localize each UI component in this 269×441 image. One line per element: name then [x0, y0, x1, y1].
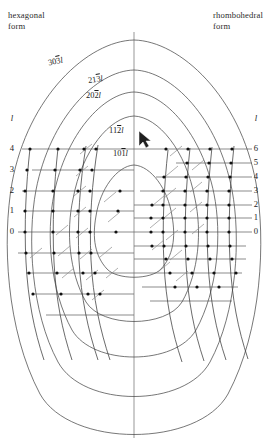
mouse-cursor-icon	[139, 131, 151, 148]
label-101l-l: l	[126, 149, 128, 158]
left-axis-symbol: l	[6, 113, 18, 123]
curve-label-101l: 101l	[113, 149, 128, 158]
label-112l-l: l	[121, 126, 123, 135]
right-lattice-rows	[163, 146, 248, 362]
label-202l-l: l	[99, 91, 101, 100]
reciprocal-lattice-svg	[0, 0, 269, 441]
right-tick-1: 1	[250, 212, 262, 222]
left-tick-1: 1	[6, 205, 18, 215]
right-tick-0: 0	[250, 226, 262, 236]
right-tick-6: 6	[250, 143, 262, 153]
left-tick-0: 0	[6, 226, 18, 236]
lattice-points	[23, 147, 237, 295]
right-tick-4: 4	[250, 171, 262, 181]
left-tick-3: 3	[6, 164, 18, 174]
right-axis-symbol: l	[250, 113, 262, 123]
left-tick-4: 4	[6, 143, 18, 153]
diagram-canvas: hexagonal form rhombohedral form	[0, 0, 269, 441]
left-tick-2: 2	[6, 185, 18, 195]
right-tick-3: 3	[250, 185, 262, 195]
curve-label-202l: 202l	[86, 91, 101, 100]
label-112l-hk: 11	[109, 126, 117, 135]
right-tick-5: 5	[250, 157, 262, 167]
right-tick-2: 2	[250, 199, 262, 209]
curve-label-112l: 112l	[109, 126, 124, 135]
